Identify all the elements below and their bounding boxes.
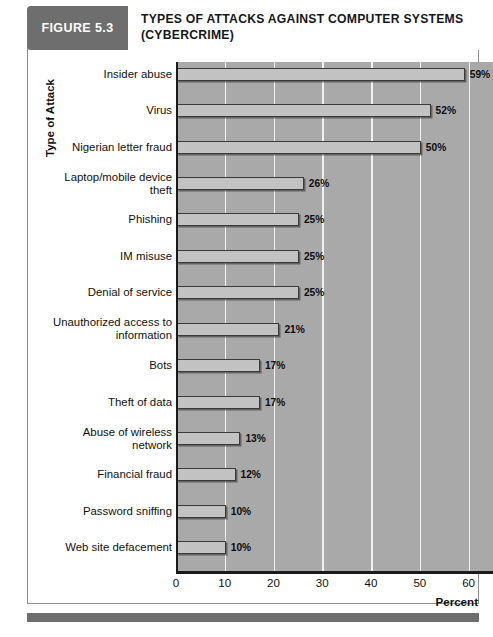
bar [177,141,421,154]
category-label-line: Laptop/mobile device [22,171,172,184]
plot-panel: 59%52%50%26%25%25%25%21%17%17%13%12%10%1… [176,62,493,572]
figure-title: TYPES OF ATTACKS AGAINST COMPUTER SYSTEM… [128,6,479,50]
gridline-50 [420,62,422,572]
x-tick-label-20: 20 [254,576,294,589]
gridline-30 [322,62,324,572]
figure-number-tag: FIGURE 5.3 [27,6,128,50]
chart-area: Type of Attack Insider abuseVirusNigeria… [27,50,479,604]
category-label-line: Virus [22,104,172,117]
category-label: Denial of service [22,286,172,299]
category-label-line: Password sniffing [22,505,172,518]
bar-value-label: 25% [304,213,324,226]
bar [177,541,226,554]
gridline-40 [371,62,373,572]
category-label: IM misuse [22,250,172,263]
bar [177,177,304,190]
category-label-line: Bots [22,359,172,372]
x-axis-line [176,571,493,574]
bar-value-label: 25% [304,250,324,263]
category-label: Bots [22,359,172,372]
bar-value-label: 21% [284,323,304,336]
gridline-20 [274,62,276,572]
y-axis-line [176,62,178,572]
category-label: Insider abuse [22,68,172,81]
category-label: Virus [22,104,172,117]
category-label-line: theft [22,184,172,197]
x-tick-label-40: 40 [351,576,391,589]
category-label: Password sniffing [22,505,172,518]
category-label-line: Phishing [22,213,172,226]
category-label: Financial fraud [22,468,172,481]
category-label-line: Nigerian letter fraud [22,141,172,154]
category-label: Nigerian letter fraud [22,141,172,154]
x-tick-label-30: 30 [302,576,342,589]
bar [177,250,299,263]
category-label-line: information [22,329,172,342]
category-label: Laptop/mobile devicetheft [22,171,172,197]
figure-title-line-2: (CYBERCRIME) [141,27,479,43]
category-label-line: network [22,439,172,452]
category-label-line: Unauthorized access to [22,316,172,329]
bar [177,286,299,299]
x-tick-label-0: 0 [156,576,196,589]
bar-value-label: 17% [265,359,285,372]
category-label-line: Denial of service [22,286,172,299]
bar [177,505,226,518]
x-axis-title: Percent [435,595,478,608]
bar-value-label: 59% [470,68,490,81]
category-label: Theft of data [22,396,172,409]
category-label-line: Insider abuse [22,68,172,81]
bar [177,432,240,445]
bar-value-label: 10% [231,505,251,518]
bar-value-label: 13% [245,432,265,445]
bar-value-label: 50% [426,141,446,154]
bar [177,359,260,372]
category-label-line: Financial fraud [22,468,172,481]
bar-value-label: 52% [436,104,456,117]
figure-bottom-rule [27,613,479,622]
category-label-column: Insider abuseVirusNigerian letter fraudL… [55,62,176,572]
category-label-line: Theft of data [22,396,172,409]
bar [177,468,236,481]
bar [177,68,465,81]
x-tick-label-10: 10 [205,576,245,589]
bar-value-label: 10% [231,541,251,554]
bar [177,213,299,226]
category-label: Web site defacement [22,541,172,554]
bar [177,323,279,336]
bar-value-label: 12% [241,468,261,481]
category-label-line: IM misuse [22,250,172,263]
category-label: Abuse of wirelessnetwork [22,426,172,452]
figure-title-line-1: TYPES OF ATTACKS AGAINST COMPUTER SYSTEM… [141,12,463,26]
category-label: Phishing [22,213,172,226]
bar-value-label: 17% [265,396,285,409]
category-label-line: Web site defacement [22,541,172,554]
category-label-line: Abuse of wireless [22,426,172,439]
gridline-10 [225,62,227,572]
bar [177,104,431,117]
gridline-60 [469,62,471,572]
figure-header: FIGURE 5.3 TYPES OF ATTACKS AGAINST COMP… [27,6,479,50]
x-tick-label-60: 60 [449,576,489,589]
bar-value-label: 26% [309,177,329,190]
bar [177,396,260,409]
x-tick-label-50: 50 [400,576,440,589]
bar-value-label: 25% [304,286,324,299]
category-label: Unauthorized access toinformation [22,316,172,342]
